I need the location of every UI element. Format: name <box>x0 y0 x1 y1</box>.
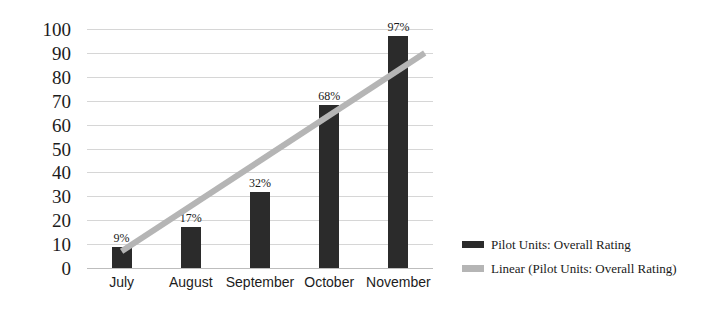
legend-item-label: Linear (Pilot Units: Overall Rating) <box>491 262 677 275</box>
gridline <box>87 268 433 269</box>
legend-swatch-icon <box>462 241 484 248</box>
y-axis-tick-label: 100 <box>0 20 80 39</box>
y-axis-tick-label: 40 <box>0 163 80 182</box>
y-axis-tick-label: 70 <box>0 91 80 110</box>
y-axis-tick-label: 0 <box>0 259 80 278</box>
trendline-segment <box>122 53 425 251</box>
legend-item[interactable]: Pilot Units: Overall Rating <box>462 232 702 256</box>
y-axis-tick-label: 80 <box>0 67 80 86</box>
plot-area: 9%17%32%68%97% <box>87 29 433 268</box>
y-axis-tick-label: 30 <box>0 187 80 206</box>
y-axis-tick-label: 60 <box>0 115 80 134</box>
x-axis-tick-label: November <box>348 274 448 291</box>
trendline <box>87 29 433 268</box>
y-axis-tick-label: 10 <box>0 235 80 254</box>
y-axis-tick-label: 90 <box>0 43 80 62</box>
legend-swatch-icon <box>462 265 484 272</box>
chart-figure: 1009080706050403020100 9%17%32%68%97% Ju… <box>0 0 708 312</box>
x-axis: JulyAugustSeptemberOctoberNovember <box>87 274 433 300</box>
legend-item[interactable]: Linear (Pilot Units: Overall Rating) <box>462 256 702 280</box>
y-axis-tick-label: 20 <box>0 211 80 230</box>
y-axis: 1009080706050403020100 <box>0 29 80 268</box>
legend-item-label: Pilot Units: Overall Rating <box>491 238 631 251</box>
chart-legend: Pilot Units: Overall RatingLinear (Pilot… <box>462 232 702 280</box>
y-axis-tick-label: 50 <box>0 139 80 158</box>
